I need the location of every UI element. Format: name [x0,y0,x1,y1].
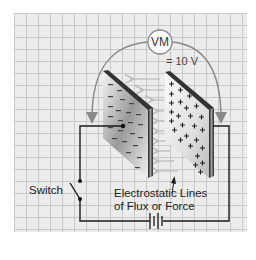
negative-plate [103,70,153,178]
flux-label-line1: Electrostatic Lines [114,187,207,200]
plate-contact-dot [121,124,125,128]
switch-symbol [70,179,82,201]
positive-plate [165,71,214,178]
capacitor-circuit-diagram [0,0,256,260]
switch-label: Switch [29,184,63,197]
voltmeter-label: VM [148,35,172,49]
flux-label-line2: of Flux or Force [114,200,195,213]
voltmeter-reading: = 10 V [166,55,198,67]
battery-symbol [150,213,162,229]
